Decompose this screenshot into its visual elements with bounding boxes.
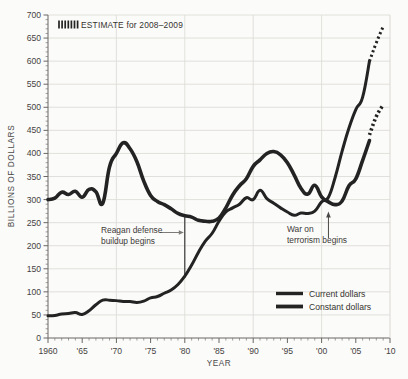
- y-tick-label: 350: [27, 172, 42, 182]
- y-tick-label: 650: [27, 33, 42, 43]
- y-tick-label: 600: [27, 56, 42, 66]
- x-tick-label: '10: [384, 346, 395, 356]
- estimate-key-label: ESTIMATE for 2008–2009: [81, 20, 183, 30]
- defense-spending-chart: 0501001502002503003504004505005506006507…: [0, 0, 408, 379]
- x-tick-label: '80: [179, 346, 190, 356]
- x-tick-label: '85: [213, 346, 224, 356]
- chart-svg: 0501001502002503003504004505005506006507…: [0, 0, 408, 379]
- y-axis-tick-labels: 0501001502002503003504004505005506006507…: [27, 10, 42, 343]
- figure-footer-caption: [0, 374, 408, 379]
- legend-label-current-dollars: Current dollars: [309, 289, 365, 299]
- reagan-annotation-line1: Reagan defense: [101, 225, 163, 235]
- reagan-annotation-line2: buildup begins: [101, 236, 155, 246]
- x-tick-label: '05: [350, 346, 361, 356]
- y-tick-label: 300: [27, 195, 42, 205]
- y-tick-label: 150: [27, 264, 42, 274]
- x-tick-label: '75: [145, 346, 156, 356]
- x-tick-label: '90: [248, 346, 259, 356]
- x-tick-label: '65: [77, 346, 88, 356]
- estimate-hatched-swatch: [59, 21, 78, 29]
- x-axis-title: YEAR: [207, 359, 232, 368]
- x-tick-label: '95: [282, 346, 293, 356]
- x-tick-label: '00: [316, 346, 327, 356]
- y-tick-label: 450: [27, 125, 42, 135]
- y-axis-title: BILLIONS OF DOLLARS: [7, 125, 16, 227]
- y-tick-label: 550: [27, 79, 42, 89]
- legend-label-constant-dollars: Constant dollars: [309, 302, 371, 312]
- y-tick-label: 700: [27, 10, 42, 20]
- estimate-key: ESTIMATE for 2008–2009: [59, 20, 183, 30]
- y-tick-label: 500: [27, 102, 42, 112]
- wot-annotation-line1: War on: [287, 224, 314, 234]
- y-tick-label: 200: [27, 241, 42, 251]
- y-tick-label: 0: [36, 333, 41, 343]
- wot-annotation-line2: terrorism begins: [287, 235, 347, 245]
- x-tick-label: '70: [111, 346, 122, 356]
- y-tick-label: 400: [27, 148, 42, 158]
- x-tick-label: 1960: [38, 346, 57, 356]
- y-tick-label: 100: [27, 287, 42, 297]
- y-tick-label: 50: [31, 310, 41, 320]
- y-tick-label: 250: [27, 218, 42, 228]
